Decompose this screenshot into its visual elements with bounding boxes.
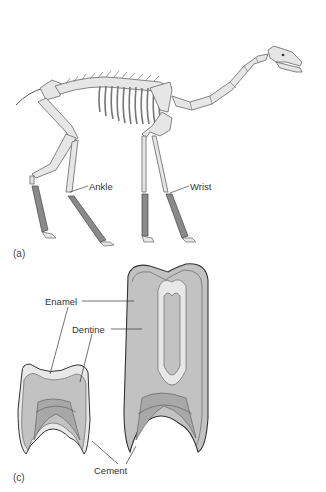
label-wrist: Wrist — [190, 182, 211, 192]
panel-label-c: (c) — [13, 473, 25, 483]
label-enamel: Enamel — [45, 297, 77, 307]
skeleton-illustration — [16, 46, 302, 192]
label-ankle: Ankle — [89, 182, 113, 192]
panel-label-a: (a) — [13, 249, 25, 259]
short-tooth — [18, 364, 90, 454]
diagram-canvas — [0, 0, 326, 492]
lower-leg-bones — [32, 186, 188, 242]
label-cement: Cement — [94, 466, 127, 476]
hooves — [42, 232, 196, 246]
tall-tooth — [124, 264, 208, 452]
label-dentine: Dentine — [72, 325, 105, 335]
leader-lines-a — [70, 186, 189, 193]
